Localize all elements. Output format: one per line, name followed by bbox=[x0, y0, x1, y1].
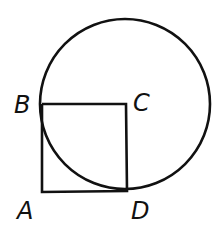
geometry-diagram: B C A D bbox=[0, 0, 221, 235]
label-a: A bbox=[15, 197, 33, 225]
label-c: C bbox=[133, 89, 150, 117]
label-d: D bbox=[131, 197, 149, 225]
label-b: B bbox=[14, 91, 30, 119]
